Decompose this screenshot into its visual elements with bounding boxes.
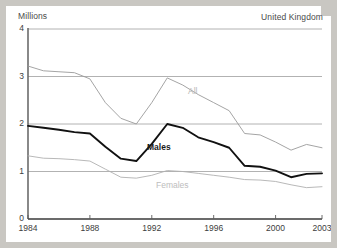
series-label-all: All: [188, 86, 197, 96]
x-tick-label: 2003: [307, 223, 331, 233]
y-tick-label: 0: [10, 213, 24, 223]
series-label-males: Males: [147, 142, 171, 152]
x-tick-label: 1988: [75, 223, 105, 233]
x-tick-label: 1996: [199, 223, 229, 233]
x-tick-label: 2000: [261, 223, 291, 233]
axes-group: [28, 28, 322, 219]
series-lines-group: [28, 66, 322, 188]
gridlines-group: [28, 29, 322, 172]
y-tick-label: 3: [10, 71, 24, 81]
series-label-females: Females: [156, 180, 189, 190]
x-tick-label: 1984: [13, 223, 43, 233]
y-tick-label: 4: [10, 23, 24, 33]
chart-figure: Millions United Kingdom 01234 1984198819…: [6, 6, 331, 242]
x-tick-label: 1992: [137, 223, 167, 233]
y-tick-label: 1: [10, 166, 24, 176]
y-tick-label: 2: [10, 118, 24, 128]
line-chart-plot: [6, 6, 331, 242]
